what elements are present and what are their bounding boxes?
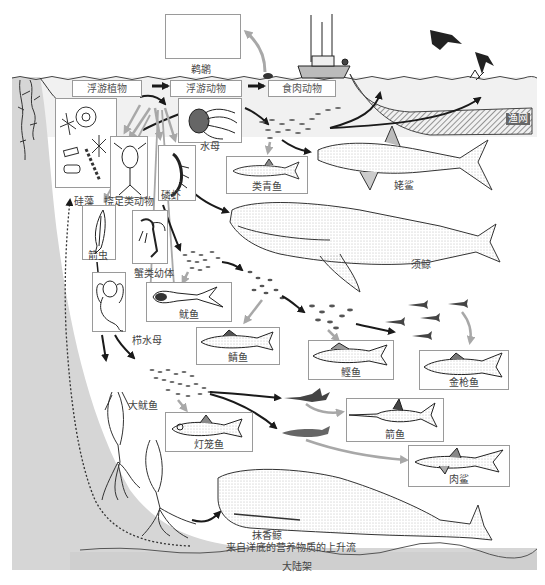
giant-squid-label: 大鱿鱼 — [128, 400, 158, 412]
comb-jelly-box — [92, 272, 126, 332]
crab-larva-icon — [133, 211, 169, 265]
squid-label: 鱿鱼 — [147, 309, 231, 320]
herring-box: 类青鱼 — [226, 156, 308, 194]
shark-box: 肉鲨 — [408, 445, 510, 487]
comb-jelly-icon — [93, 273, 127, 333]
diatom-icon — [56, 99, 118, 189]
arrow-worm-label: 箭虫 — [88, 250, 108, 262]
lanternfish-icon — [166, 413, 254, 441]
tuna-label: 金枪鱼 — [420, 377, 508, 388]
header-zooplankton: 浮游动物 — [170, 80, 242, 97]
duck-icon — [263, 73, 273, 79]
plankton-cloud-1 — [183, 251, 221, 271]
fish-school-2 — [248, 271, 285, 299]
fish-school-3 — [309, 305, 353, 330]
swordfish-icon — [347, 399, 445, 431]
jellyfish-box — [178, 98, 242, 143]
lanternfish-label: 灯笼鱼 — [166, 439, 252, 450]
small-swordfish-icon — [284, 388, 330, 402]
squid-box: 鱿鱼 — [146, 282, 232, 322]
krill-label: 磷虾 — [161, 190, 181, 202]
tuna-box: 金枪鱼 — [419, 350, 509, 390]
fishing-net-label: 渔网 — [506, 113, 530, 125]
shark-icon — [409, 446, 511, 476]
mackerel-icon — [197, 328, 281, 354]
diatoms-box — [55, 98, 117, 188]
lanternfish-box: 灯笼鱼 — [165, 412, 253, 452]
herring-icon — [227, 157, 309, 183]
copepods-box — [110, 136, 148, 198]
squid-icon — [147, 283, 233, 311]
upwelling-label: 来自洋底的营养物质的上升流 — [226, 542, 356, 554]
humpback-whale-label: 须鲸 — [411, 259, 431, 271]
herring-label: 类青鱼 — [227, 181, 307, 192]
shark-label: 肉鲨 — [409, 474, 509, 485]
swordfish-box: 箭鱼 — [346, 398, 444, 442]
plankton-cloud-2 — [150, 369, 213, 397]
sperm-whale-label: 抹香鲸 — [252, 530, 282, 542]
basking-shark-label: 姥鲨 — [394, 180, 414, 192]
crab-larvae-label: 蟹类幼体 — [134, 268, 174, 280]
tuna-icon — [420, 351, 510, 379]
fishing-boat-icon — [298, 14, 350, 78]
bonito-icon — [309, 341, 395, 369]
crab-larvae-box — [132, 210, 168, 264]
comb-jelly-label: 栉水母 — [132, 335, 162, 347]
swordfish-label: 箭鱼 — [347, 429, 443, 440]
jellyfish-label: 水母 — [200, 141, 220, 153]
bonito-box: 鲣鱼 — [308, 340, 394, 380]
pelican-label: 鹈鹕 — [191, 64, 211, 76]
humpback-whale-icon — [230, 203, 500, 293]
header-phytoplankton: 浮游植物 — [72, 80, 142, 97]
mackerel-box: 鲭鱼 — [196, 327, 280, 365]
header-carnivores: 食肉动物 — [268, 80, 336, 97]
marine-food-web-diagram: 鹈鹕 浮游植物 浮游动物 食肉动物 硅藻 水母 挠足类动物 — [0, 0, 545, 585]
mackerel-label: 鲭鱼 — [197, 352, 279, 363]
continental-shelf-label: 大陆架 — [282, 561, 312, 573]
pelican-box — [165, 14, 241, 59]
bonito-label: 鲣鱼 — [309, 367, 393, 378]
copepod-icon — [111, 137, 149, 199]
small-shark-icon — [282, 426, 330, 437]
seabird-icon — [430, 30, 494, 80]
jellyfish-icon — [179, 99, 243, 144]
fish-school-4 — [385, 299, 468, 340]
